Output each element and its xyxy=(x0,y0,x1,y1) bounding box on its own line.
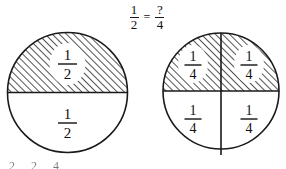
equation-left-denominator: 2 xyxy=(130,19,139,31)
label-bottom-one-half: 1 2 xyxy=(58,106,77,141)
half-circle-svg: 1 2 1 2 xyxy=(6,31,129,154)
equals-sign: = xyxy=(144,11,151,23)
label-top-left-numerator: 1 xyxy=(190,49,197,64)
equation-right-numerator: ? xyxy=(156,4,164,16)
label-bottom-left-one-fourth: 1 4 xyxy=(185,103,202,136)
equation-left-fraction: 1 2 xyxy=(130,4,139,31)
label-top-right-numerator: 1 xyxy=(246,49,253,64)
half-circle-model: 1 2 1 2 xyxy=(6,31,129,154)
label-bottom-left-denominator: 4 xyxy=(190,121,197,136)
label-top-numerator: 1 xyxy=(64,47,72,63)
equation-right-fraction: ? 4 xyxy=(155,4,164,31)
quarter-circle-svg: 1 4 1 4 1 4 1 4 xyxy=(162,31,280,161)
bottom-right-denominator: 4 xyxy=(52,161,60,169)
equation-one-half-equals-question-fourths: 1 2 = ? 4 xyxy=(112,2,182,32)
label-top-denominator: 2 xyxy=(64,66,72,82)
label-top-left-denominator: 4 xyxy=(190,67,197,82)
equation-right-denominator: 4 xyxy=(156,19,165,31)
bottom-middle-denominator: 2 xyxy=(30,161,38,169)
bottom-right-fraction: 4 xyxy=(52,161,60,169)
label-bottom-denominator: 2 xyxy=(64,125,72,141)
label-bottom-right-denominator: 4 xyxy=(246,121,253,136)
label-bottom-right-numerator: 1 xyxy=(246,103,253,118)
diagram-canvas: 1 2 = ? 4 xyxy=(0,0,286,169)
equation-left-numerator: 1 xyxy=(130,4,139,16)
bottom-clipped-equation: 2 2 4 xyxy=(8,161,128,169)
bottom-left-fraction: 2 xyxy=(8,161,16,169)
quarter-circle-model: 1 4 1 4 1 4 1 4 xyxy=(162,31,280,154)
label-top-right-denominator: 4 xyxy=(246,67,253,82)
bottom-left-denominator: 2 xyxy=(8,161,16,169)
label-bottom-numerator: 1 xyxy=(64,106,72,122)
label-bottom-left-numerator: 1 xyxy=(190,103,197,118)
bottom-middle-fraction: 2 xyxy=(30,161,38,169)
label-bottom-right-one-fourth: 1 4 xyxy=(241,103,258,136)
